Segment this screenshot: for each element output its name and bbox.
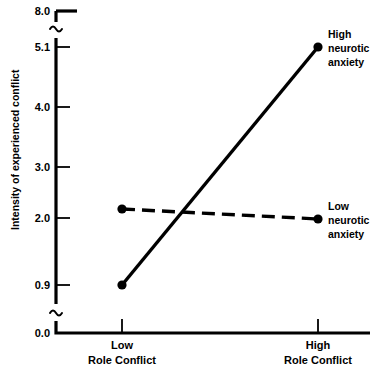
x-axis-sublabel-high: Role Conflict	[284, 354, 352, 366]
chart-figure: 8.0 5.1 4.0 3.0 2.0 0.9 0.0 Intensity of…	[0, 0, 378, 372]
series-label-high-line2: neurotic	[328, 42, 370, 54]
y-tick-label-3.0: 3.0	[35, 161, 50, 173]
y-axis-title: Intensity of experienced conflict	[9, 69, 21, 230]
series-low-neurotic-anxiety	[117, 204, 322, 223]
series-label-high-line3: anxiety	[328, 56, 364, 68]
series-label-low-neurotic-anxiety: Low neurotic anxiety	[328, 200, 370, 240]
series-label-high-line1: High	[328, 28, 351, 40]
series-label-high-neurotic-anxiety: High neurotic anxiety	[328, 28, 370, 68]
x-axis-sublabel-low: Role Conflict	[88, 354, 156, 366]
y-tick-label-2.0: 2.0	[35, 212, 50, 224]
y-axis-break-lower-icon	[50, 311, 62, 316]
y-tick-label-8.0: 8.0	[35, 5, 50, 17]
y-axis-break-upper-icon	[50, 27, 62, 32]
series-low-point-low-role-conflict	[117, 204, 126, 213]
x-tick-label-low: Low	[111, 339, 133, 351]
series-label-low-line1: Low	[328, 200, 350, 212]
series-label-low-line2: neurotic	[328, 214, 370, 226]
series-label-low-line3: anxiety	[328, 228, 364, 240]
series-high-neurotic-anxiety	[117, 42, 322, 289]
y-tick-label-5.1: 5.1	[35, 41, 50, 53]
y-tick-label-0.9: 0.9	[35, 279, 50, 291]
y-tick-label-4.0: 4.0	[35, 101, 50, 113]
series-high-line	[122, 47, 318, 285]
series-low-point-high-role-conflict	[313, 214, 322, 223]
interaction-line-chart: 8.0 5.1 4.0 3.0 2.0 0.9 0.0 Intensity of…	[0, 0, 378, 372]
series-high-point-low-role-conflict	[117, 280, 126, 289]
x-tick-label-high: High	[306, 339, 331, 351]
x-axis-baseline	[56, 321, 370, 333]
series-high-point-high-role-conflict	[313, 42, 322, 51]
y-tick-label-0.0: 0.0	[35, 327, 50, 339]
series-low-line	[122, 209, 318, 219]
